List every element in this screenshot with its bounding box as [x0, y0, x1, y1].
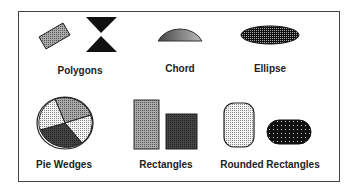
label-chord: Chord — [165, 63, 194, 74]
label-polygons: Polygons — [57, 65, 102, 76]
label-rectangles: Rectangles — [139, 159, 192, 170]
wide-rounded-rectangle — [267, 120, 311, 144]
ellipse-shape — [241, 26, 299, 44]
label-rounded-rectangles: Rounded Rectangles — [220, 159, 319, 170]
pie-wedges-shape — [37, 97, 93, 149]
tilted-polygon — [39, 23, 70, 49]
square-rectangle — [166, 114, 197, 149]
chord-shape — [158, 29, 202, 41]
hourglass-polygon — [86, 17, 117, 52]
label-pie-wedges: Pie Wedges — [36, 159, 92, 170]
label-ellipse: Ellipse — [254, 63, 286, 74]
tall-rounded-rectangle — [224, 103, 254, 147]
tall-rectangle — [134, 100, 159, 149]
